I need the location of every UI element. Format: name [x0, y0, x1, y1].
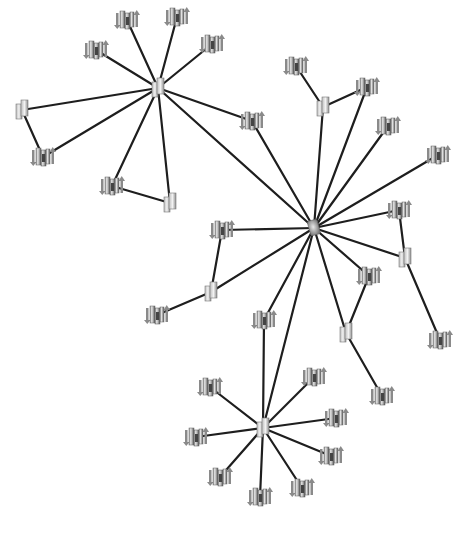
link-hubA-sA7 [158, 88, 252, 121]
server-icon[interactable] [425, 145, 451, 164]
switch-icon[interactable] [257, 418, 269, 437]
server-icon[interactable] [207, 467, 233, 486]
server-icon[interactable] [375, 116, 401, 135]
server-icon[interactable] [83, 40, 109, 59]
switch-icon[interactable] [399, 248, 411, 267]
server-icon[interactable] [251, 310, 277, 329]
server-icon[interactable] [144, 305, 170, 324]
link-hubA-sA2 [158, 17, 177, 88]
server-icon[interactable] [283, 56, 309, 75]
server-icon[interactable] [323, 408, 349, 427]
link-hubC-sC2 [263, 377, 314, 428]
server-icon[interactable] [209, 220, 235, 239]
server-icon[interactable] [318, 446, 344, 465]
server-icon[interactable] [239, 111, 265, 130]
link-swB4-hubB [211, 228, 314, 292]
server-icon[interactable] [386, 200, 412, 219]
network-diagram [0, 0, 470, 535]
link-swB4-sB10 [157, 292, 211, 315]
link-swB3-sB8 [346, 333, 382, 396]
server-icon[interactable] [30, 147, 56, 166]
link-hubB-sB9 [222, 228, 314, 230]
server-icon[interactable] [183, 427, 209, 446]
server-icon[interactable] [427, 330, 453, 349]
server-icon[interactable] [114, 10, 140, 29]
link-hubB-sB11 [264, 228, 314, 320]
link-sB11-hubC [263, 320, 264, 428]
link-sA7-hubB [252, 121, 314, 228]
server-icon[interactable] [354, 77, 380, 96]
link-sB4-hubB [314, 155, 438, 228]
link-hubB-swB3 [314, 228, 346, 333]
link-sB5-hubB [314, 210, 399, 228]
link-hubB-hubC [263, 228, 314, 428]
switch-icon[interactable] [164, 193, 176, 212]
link-hubC-sC1 [210, 387, 263, 428]
server-icon[interactable] [289, 478, 315, 497]
switch-icon[interactable] [16, 100, 28, 119]
server-icon[interactable] [199, 34, 225, 53]
server-icon[interactable] [197, 377, 223, 396]
switch-icon[interactable] [205, 282, 217, 301]
server-icon[interactable] [301, 367, 327, 386]
link-sB3-hubB [314, 126, 388, 228]
switch-icon[interactable] [340, 323, 352, 342]
link-swB2-sB6 [405, 258, 440, 340]
link-swB2-hubB [314, 228, 405, 258]
server-icon[interactable] [164, 7, 190, 26]
link-hubC-sC8 [260, 428, 263, 497]
server-icon[interactable] [99, 176, 125, 195]
link-hubA-swA2 [158, 88, 170, 203]
link-hubA-hubB [158, 88, 314, 228]
server-icon[interactable] [369, 386, 395, 405]
server-icon[interactable] [247, 487, 273, 506]
